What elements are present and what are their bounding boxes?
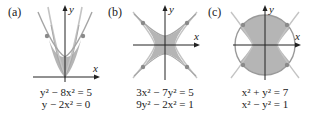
panel-a-y-label: y	[68, 3, 74, 15]
panel-b-graph: y x	[133, 3, 200, 80]
panel-b-intersection-point	[141, 65, 145, 69]
panel-a-label: (a)	[8, 5, 21, 20]
panel-a-graph: y x	[33, 3, 100, 82]
panel-c-intersection-point	[241, 23, 245, 27]
panel-a-equation-2: y − 2x² = 0	[36, 98, 96, 110]
panel-b-intersection-point	[185, 21, 189, 25]
panel-c-label: (c)	[208, 5, 221, 20]
panel-c-equation-1: x² + y² = 7	[234, 86, 296, 98]
panel-b-label: (b)	[108, 5, 122, 20]
panel-c-graph: y x	[230, 3, 301, 80]
panel-c-intersection-point	[241, 63, 245, 67]
panel-b-intersection-point	[141, 21, 145, 25]
panel-c-equations: x² + y² = 7 x² − y² = 1	[234, 86, 296, 110]
panel-a-x-arrow-icon	[94, 75, 100, 80]
panel-a-intersection-point	[81, 34, 85, 38]
panel-b-intersection-point	[185, 65, 189, 69]
panel-b-x-label: x	[193, 30, 199, 42]
figure-three-panels: y x y x	[0, 0, 309, 116]
panel-b-equations: 3x² − 7y² = 5 9y² − 2x² = 1	[133, 86, 197, 110]
panel-a-equation-1: y² − 8x² = 5	[36, 86, 96, 98]
panel-b-y-arrow-icon	[163, 5, 168, 11]
panel-a-equations: y² − 8x² = 5 y − 2x² = 0	[36, 86, 96, 110]
panel-c-y-arrow-icon	[263, 5, 268, 11]
panel-c-intersection-point	[285, 63, 289, 67]
panel-c-x-arrow-icon	[295, 43, 301, 48]
panel-c-equation-2: x² − y² = 1	[234, 98, 296, 110]
panel-c-intersection-point	[285, 23, 289, 27]
panel-c-y-label: y	[268, 3, 274, 15]
panel-b-y-label: y	[168, 3, 174, 15]
panel-a-intersection-point	[45, 34, 49, 38]
panel-b-x-arrow-icon	[194, 43, 200, 48]
panel-c-x-label: x	[294, 30, 300, 42]
panel-a-x-label: x	[92, 62, 98, 74]
panel-b-equation-2: 9y² − 2x² = 1	[133, 98, 197, 110]
panel-a-y-arrow-icon	[63, 5, 68, 11]
panel-b-equation-1: 3x² − 7y² = 5	[133, 86, 197, 98]
